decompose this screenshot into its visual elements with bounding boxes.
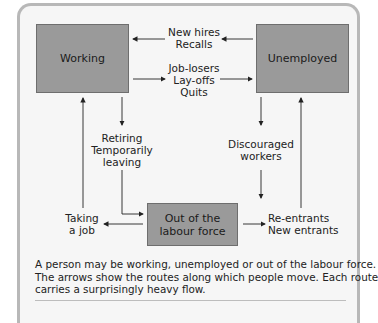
state-label-line: labour force [159, 225, 225, 238]
state-unemployed: Unemployed [256, 24, 349, 93]
figure-caption: A person may be working, unemployed or o… [35, 258, 355, 296]
flow-label-taking-a-job: Taking a job [62, 212, 102, 236]
flow-label-job-losers: Job-losers Lay-offs Quits [164, 62, 224, 98]
state-label: Unemployed [268, 52, 338, 65]
caption-divider [35, 300, 346, 301]
flow-label-discouraged: Discouraged workers [226, 138, 296, 162]
state-out-of-labour-force: Out of the labour force [147, 203, 238, 246]
state-label: Working [60, 52, 105, 65]
flow-label-retiring: Retiring Temporarily leaving [88, 132, 156, 168]
flow-label-re-entrants: Re-entrants New entrants [268, 212, 338, 236]
state-working: Working [36, 24, 129, 93]
state-label-line: Out of the [165, 212, 221, 225]
flow-label-new-hires: New hires Recalls [164, 26, 224, 50]
